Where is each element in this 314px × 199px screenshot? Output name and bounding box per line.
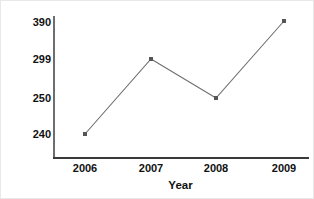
- x-axis-title: Year: [53, 178, 308, 192]
- x-axis-tick-label: 2008: [204, 161, 228, 175]
- data-point-marker: [282, 19, 286, 23]
- data-point-marker: [214, 96, 218, 100]
- x-axis-tick-labels: 2006200720082009: [1, 161, 314, 177]
- data-markers: [83, 19, 286, 136]
- line-chart: Number of Students Voting 390299250240 2…: [0, 0, 314, 199]
- x-axis-tick-label: 2009: [272, 161, 296, 175]
- data-point-marker: [83, 132, 87, 136]
- data-point-marker: [149, 57, 153, 61]
- data-line: [85, 21, 284, 134]
- x-axis-tick-label: 2006: [73, 161, 97, 175]
- x-axis-tick-label: 2007: [139, 161, 163, 175]
